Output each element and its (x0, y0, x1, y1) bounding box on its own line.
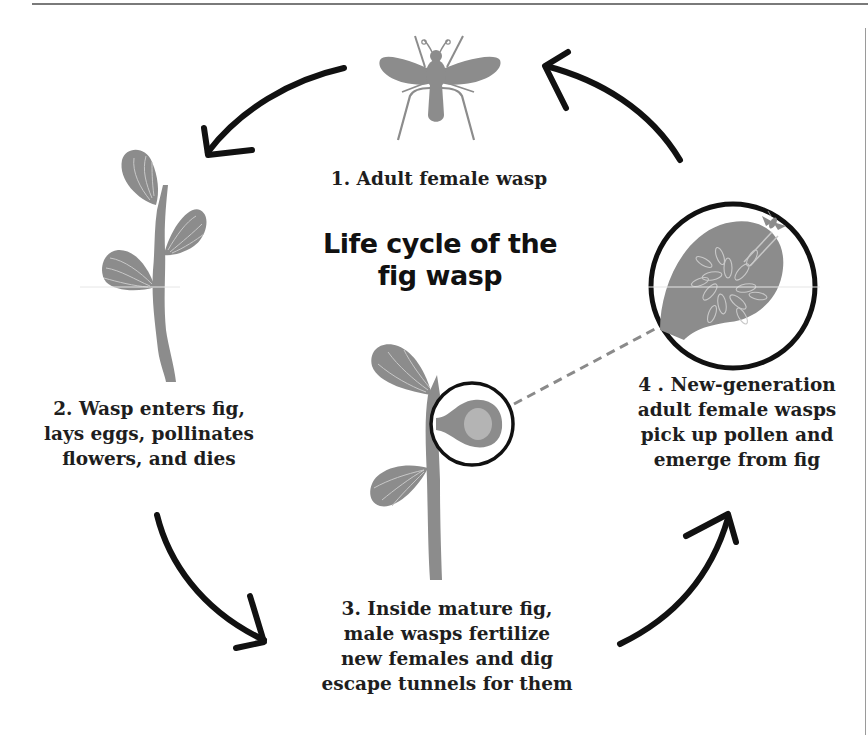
arrow-step4-to-step1-icon (545, 52, 680, 160)
step-3-line-3: new females and dig (292, 646, 602, 671)
arrow-step3-to-step4-icon (620, 514, 736, 644)
step-2-line-2: lays eggs, pollinates (14, 421, 284, 446)
wasp-icon (379, 36, 500, 140)
step-1-line: 1. Adult female wasp (300, 166, 578, 191)
step-4-line-3: pick up pollen and (612, 422, 862, 447)
diagram-title: Life cycle of the fig wasp (300, 228, 580, 292)
fig-branch-icon (80, 150, 207, 382)
step-4-label: 4 . New-generation adult female wasps pi… (612, 372, 862, 472)
step-4-line-4: emerge from fig (612, 447, 862, 472)
step-3-line-1: 3. Inside mature fig, (292, 596, 602, 621)
title-line-1: Life cycle of the (300, 228, 580, 260)
step-3-line-4: escape tunnels for them (292, 671, 602, 696)
step-3-label: 3. Inside mature fig, male wasps fertili… (292, 596, 602, 696)
arrow-step2-to-step3-icon (157, 515, 264, 648)
step-4-line-2: adult female wasps (612, 397, 862, 422)
arrow-step1-to-step2-icon (204, 68, 344, 155)
step-4-line-1: 4 . New-generation (612, 372, 862, 397)
step-2-line-3: flowers, and dies (14, 446, 284, 471)
step-2-line-1: 2. Wasp enters fig, (14, 396, 284, 421)
title-line-2: fig wasp (300, 260, 580, 292)
step-2-label: 2. Wasp enters fig, lays eggs, pollinate… (14, 396, 284, 471)
step-1-label: 1. Adult female wasp (300, 166, 578, 191)
magnified-fig-cross-section-icon (648, 204, 820, 368)
step-3-line-2: male wasps fertilize (292, 621, 602, 646)
